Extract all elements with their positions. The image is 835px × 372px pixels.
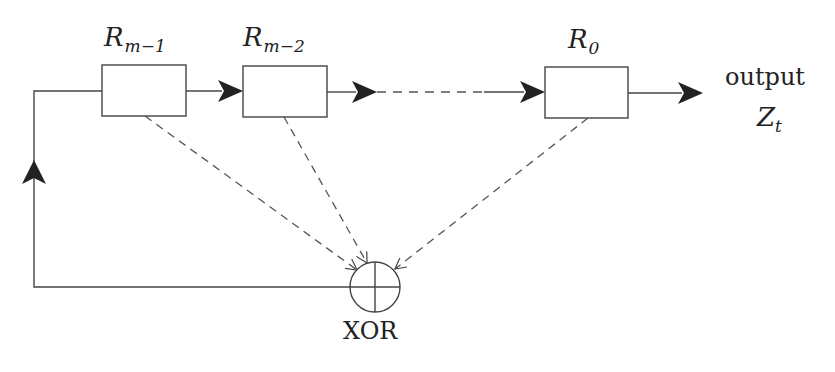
register-label-base: R [568, 24, 588, 54]
register-label-r-0: R0 [568, 24, 599, 58]
lfsr-diagram: Rm−1 Rm−2 R0 output Zt XOR [0, 0, 835, 372]
tap-r-0 [395, 118, 588, 269]
register-label-subscript: 0 [589, 38, 600, 58]
xor-label: XOR [343, 317, 397, 345]
output-edge [628, 82, 703, 104]
register-label-subscript: m−2 [264, 36, 305, 56]
output-variable-base: Z [757, 102, 775, 132]
output-variable-subscript: t [775, 116, 782, 136]
register-box-r-m-1 [102, 65, 186, 116]
register-box-r-m-2 [243, 66, 327, 117]
xor-gate-icon [350, 262, 400, 312]
register-label-base: R [104, 22, 124, 52]
tap-r-m-1 [145, 116, 357, 270]
register-label-subscript: m−1 [125, 36, 166, 56]
register-label-base: R [243, 22, 263, 52]
register-box-r-0 [545, 67, 628, 118]
shift-edge-2 [327, 81, 545, 103]
tap-r-m-2 [284, 117, 367, 263]
output-variable: Zt [757, 102, 782, 136]
output-label: output [725, 63, 805, 91]
shift-edge-1 [186, 80, 243, 102]
register-label-r-m-1: Rm−1 [104, 22, 166, 56]
feedback-loop [22, 91, 350, 287]
register-label-r-m-2: Rm−2 [243, 22, 305, 56]
